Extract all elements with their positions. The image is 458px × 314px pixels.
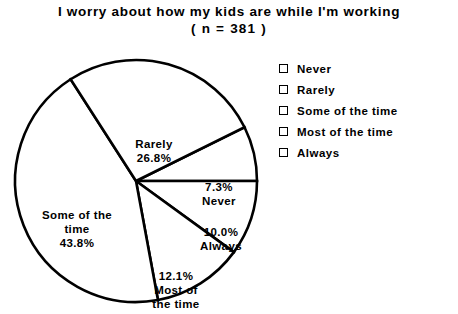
slice-label-most-name-line2: the time [138, 297, 214, 311]
slice-label-some-name-line2: time [22, 222, 132, 236]
slice-label-most-name-line1: Most of [138, 283, 214, 297]
legend-label-never: Never [297, 63, 331, 75]
slice-label-most-of-the-time: 12.1% Most of the time [138, 269, 214, 311]
slice-label-some-value: 43.8% [22, 236, 132, 250]
slice-label-always-name: Always [186, 239, 256, 253]
chart-title-block: I worry about how my kids are while I'm … [0, 3, 458, 37]
legend-item-rarely[interactable]: Rarely [279, 79, 454, 100]
slice-label-rarely: Rarely 26.8% [118, 137, 190, 165]
slice-label-some-name-line1: Some of the [22, 208, 132, 222]
slice-label-most-value: 12.1% [138, 269, 214, 283]
slice-label-always: 10.0% Always [186, 225, 256, 253]
legend-swatch-icon [279, 106, 288, 115]
pie-graphic-area: Rarely 26.8% 7.3% Never 10.0% Always 12.… [0, 45, 275, 314]
legend-swatch-icon [279, 64, 288, 73]
chart-subtitle-sample-size: ( n = 381 ) [0, 20, 458, 37]
legend-label-always: Always [297, 147, 340, 159]
legend-label-most-of-the-time: Most of the time [297, 126, 393, 138]
slice-label-never-value: 7.3% [188, 180, 250, 194]
slice-label-rarely-value: 26.8% [118, 151, 190, 165]
slice-label-some-of-the-time: Some of the time 43.8% [22, 208, 132, 250]
chart-legend: Never Rarely Some of the time Most of th… [279, 58, 454, 163]
legend-label-rarely: Rarely [297, 84, 335, 96]
legend-swatch-icon [279, 85, 288, 94]
legend-item-some-of-the-time[interactable]: Some of the time [279, 100, 454, 121]
legend-label-some-of-the-time: Some of the time [297, 105, 398, 117]
legend-swatch-icon [279, 148, 288, 157]
legend-item-most-of-the-time[interactable]: Most of the time [279, 121, 454, 142]
legend-swatch-icon [279, 127, 288, 136]
legend-item-never[interactable]: Never [279, 58, 454, 79]
legend-item-always[interactable]: Always [279, 142, 454, 163]
pie-chart-figure: I worry about how my kids are while I'm … [0, 0, 458, 314]
slice-label-never: 7.3% Never [188, 180, 250, 208]
page-title: I worry about how my kids are while I'm … [0, 3, 458, 20]
slice-label-rarely-name: Rarely [118, 137, 190, 151]
slice-label-never-name: Never [188, 194, 250, 208]
slice-label-always-value: 10.0% [186, 225, 256, 239]
